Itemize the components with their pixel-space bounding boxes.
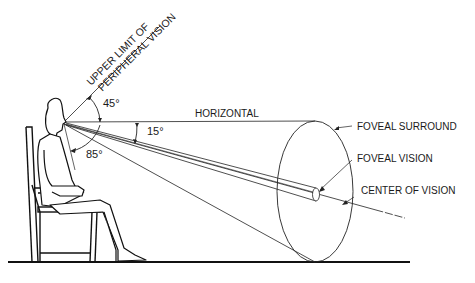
- angle-label-45: 45°: [103, 97, 120, 109]
- foveal-cylinder-top: [66, 123, 316, 188]
- seated-person: [38, 98, 146, 261]
- foveal-cylinder-mid: [66, 124, 313, 192]
- center-of-vision-line: [64, 124, 405, 218]
- horizontal-label: HORIZONTAL: [195, 108, 259, 119]
- angle-label-85: 85°: [86, 148, 103, 160]
- arrowhead-icon: [334, 126, 339, 130]
- arrowhead-icon: [98, 118, 102, 122]
- upper-limit-label-line2: PERIPHERAL VISION: [95, 11, 177, 93]
- foveal-vision-ellipse: [313, 188, 320, 201]
- horizontal-line: [64, 121, 315, 122]
- foveal-cylinder-bottom: [66, 125, 316, 201]
- center-of-vision-label: CENTER OF VISION: [361, 185, 455, 196]
- foveal-vision-label: FOVEAL VISION: [357, 153, 433, 164]
- arrowhead-icon: [135, 123, 139, 127]
- upper-limit-label: UPPER LIMIT OF PERIPHERAL VISION: [84, 2, 178, 96]
- arrowhead-icon: [319, 186, 325, 192]
- foveal-surround-label: FOVEAL SURROUND: [357, 121, 457, 132]
- leader-foveal-vision: [320, 160, 352, 190]
- angle-label-15: 15°: [147, 125, 164, 137]
- vision-field-diagram: UPPER LIMIT OF PERIPHERAL VISION 45° 15°…: [0, 0, 475, 283]
